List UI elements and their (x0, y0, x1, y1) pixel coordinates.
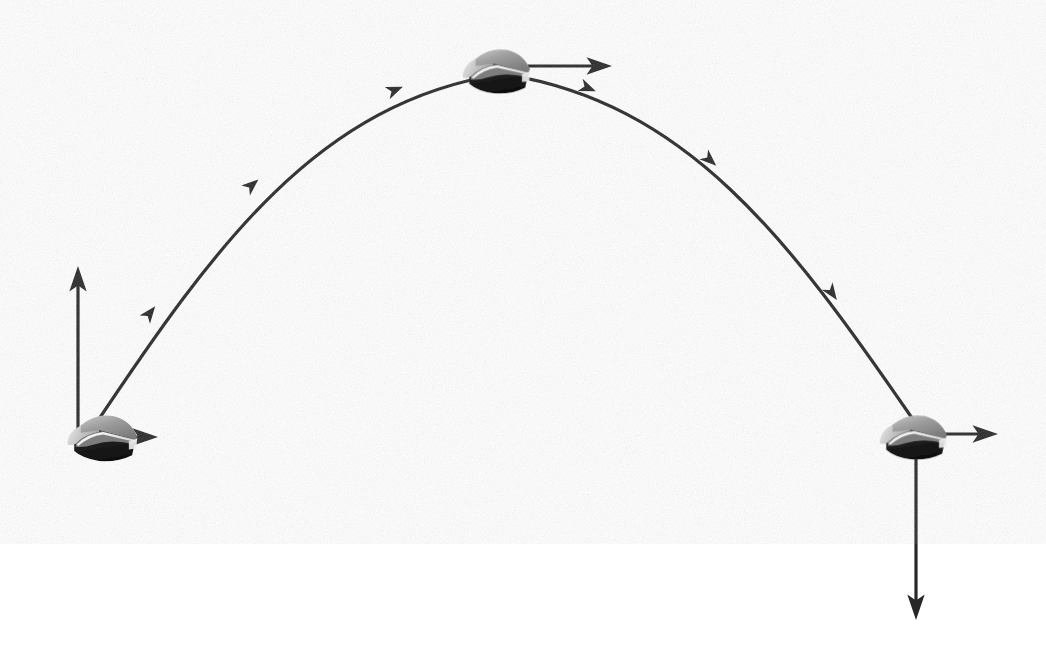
landing-vertical-velocity-arrow (907, 444, 924, 620)
projectile-motion-diagram (0, 0, 1046, 647)
projectile-at-apex (463, 49, 530, 93)
trajectory-direction-markers (140, 79, 843, 324)
launch-vertical-velocity-arrow (69, 266, 86, 440)
ascent-marker-1 (140, 302, 161, 323)
ascent-marker-3 (385, 81, 406, 99)
velocity-vectors-group (69, 57, 998, 620)
trajectory-path (93, 74, 912, 428)
figure-canvas: Projectile motion trajectory diagram (0, 0, 1046, 647)
apex-horizontal-velocity-arrow (528, 57, 612, 74)
descent-marker-2 (699, 149, 720, 170)
ascent-marker-2 (241, 175, 262, 196)
descent-marker-3 (822, 282, 842, 303)
trajectory-curve-group (93, 74, 912, 428)
projectile-objects-group (68, 49, 947, 461)
projectile-at-landing (880, 415, 947, 459)
